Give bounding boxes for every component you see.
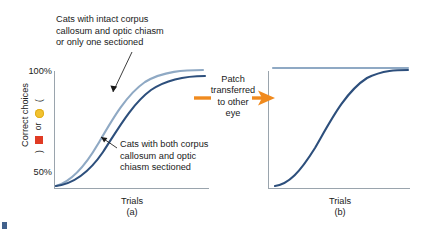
panel-a-x-axis-title: Trials bbox=[92, 196, 172, 206]
legend-or-label: or bbox=[34, 123, 43, 130]
panel-b-x-axis bbox=[268, 188, 410, 189]
panel-b-tag: (b) bbox=[300, 207, 380, 217]
leader-line-lower bbox=[101, 137, 117, 148]
panel-b-dark-curve bbox=[275, 70, 408, 186]
panel-a-y-axis bbox=[54, 71, 55, 188]
y-axis-title: Correct choices bbox=[20, 70, 30, 160]
corner-artifact-mark bbox=[2, 222, 7, 229]
figure-container: Correct choices ( or ) 100% 50% bbox=[0, 0, 422, 239]
upper-curve-annotation: Cats with intact corpus callosum and opt… bbox=[56, 14, 201, 49]
symbol-legend: ( or ) bbox=[31, 97, 47, 155]
panel-b-x-axis-title: Trials bbox=[300, 196, 380, 206]
legend-close-paren: ) bbox=[35, 150, 42, 153]
leader-line-upper bbox=[110, 52, 132, 92]
y-tick-label-100: 100% bbox=[18, 66, 52, 76]
lower-curve-annotation: Cats with both corpus callosum and optic… bbox=[120, 139, 220, 174]
red-square-icon bbox=[35, 136, 43, 144]
legend-open-paren: ( bbox=[35, 99, 42, 102]
patch-transfer-caption: Patch transferred to other eye bbox=[196, 74, 270, 120]
yellow-circle-icon bbox=[35, 109, 44, 118]
panel-a-tag: (a) bbox=[92, 207, 172, 217]
panel-a-x-axis bbox=[54, 188, 209, 189]
y-tick-label-50: 50% bbox=[18, 167, 52, 177]
